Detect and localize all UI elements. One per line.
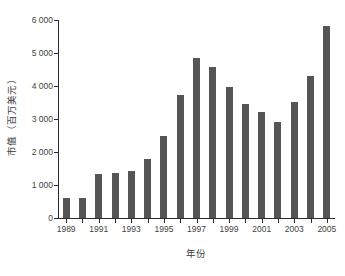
y-tick-mark <box>54 185 58 186</box>
bars-layer <box>58 20 335 218</box>
x-tick-mark <box>262 219 263 223</box>
bar <box>274 122 281 218</box>
x-tick-mark <box>278 219 279 223</box>
bar <box>258 112 265 218</box>
y-tick-label: 5 000 <box>32 48 53 58</box>
plot-area <box>58 20 335 218</box>
y-axis-title: 市值（百万美元） <box>0 0 22 230</box>
x-tick-mark <box>180 219 181 223</box>
bar <box>128 171 135 218</box>
bar <box>144 159 151 218</box>
bar <box>242 104 249 219</box>
y-axis-tick-labels: 01 0002 0003 0004 0005 0006 000 <box>22 0 56 230</box>
x-tick-mark <box>229 219 230 223</box>
bar <box>307 76 314 218</box>
x-tick-mark <box>294 219 295 223</box>
x-tick-label: 1993 <box>122 224 141 234</box>
bar <box>95 174 102 218</box>
bar <box>209 67 216 218</box>
x-tick-mark <box>164 219 165 223</box>
x-tick-mark <box>148 219 149 223</box>
x-tick-mark <box>131 219 132 223</box>
x-tick-label: 1995 <box>154 224 173 234</box>
bar <box>112 173 119 218</box>
x-tick-mark <box>327 219 328 223</box>
y-tick-mark <box>54 152 58 153</box>
bar <box>323 26 330 218</box>
y-tick-label: 1 000 <box>32 180 53 190</box>
y-tick-label: 3 000 <box>32 114 53 124</box>
x-tick-label: 1991 <box>89 224 108 234</box>
y-tick-label: 2 000 <box>32 147 53 157</box>
y-tick-mark <box>54 86 58 87</box>
x-tick-mark <box>66 219 67 223</box>
x-tick-mark <box>213 219 214 223</box>
bar <box>63 198 70 218</box>
x-tick-label: 1999 <box>220 224 239 234</box>
x-tick-label: 2003 <box>285 224 304 234</box>
x-tick-mark <box>197 219 198 223</box>
bar <box>226 87 233 218</box>
y-tick-mark <box>54 119 58 120</box>
y-tick-mark <box>54 218 58 219</box>
bar <box>160 136 167 218</box>
x-tick-mark <box>82 219 83 223</box>
y-tick-label: 0 <box>48 213 53 223</box>
bar <box>177 95 184 218</box>
x-tick-label: 2001 <box>252 224 271 234</box>
x-tick-mark <box>245 219 246 223</box>
x-tick-label: 1989 <box>57 224 76 234</box>
bar <box>291 102 298 218</box>
x-tick-mark <box>115 219 116 223</box>
y-tick-mark <box>54 53 58 54</box>
bar <box>79 198 86 218</box>
y-tick-label: 4 000 <box>32 81 53 91</box>
x-tick-label: 1997 <box>187 224 206 234</box>
x-tick-mark <box>311 219 312 223</box>
x-tick-label: 2005 <box>317 224 336 234</box>
x-axis-title: 年份 <box>58 246 335 260</box>
x-axis-tick-labels: 198919911993199519971999200120032005 <box>58 224 335 240</box>
y-tick-label: 6 000 <box>32 15 53 25</box>
y-tick-mark <box>54 20 58 21</box>
y-axis-title-label: 市值（百万美元） <box>4 74 18 156</box>
x-tick-mark <box>99 219 100 223</box>
bar <box>193 58 200 218</box>
bar-chart-figure: 市值（百万美元） 01 0002 0003 0004 0005 0006 000… <box>0 0 345 276</box>
